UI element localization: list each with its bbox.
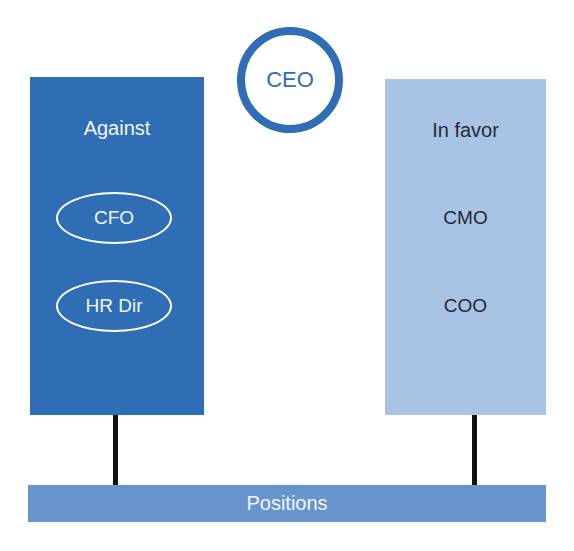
positions-label: Positions [246, 492, 327, 515]
cfo-label: CFO [94, 207, 134, 229]
right-connector-line [472, 415, 477, 486]
coo-label: COO [385, 295, 546, 317]
hr-dir-label: HR Dir [86, 295, 143, 317]
ceo-label: CEO [266, 67, 314, 93]
against-title: Against [30, 117, 204, 140]
cmo-label: CMO [385, 207, 546, 229]
positions-bar: Positions [28, 485, 546, 522]
left-connector-line [113, 415, 118, 486]
cfo-oval: CFO [56, 192, 172, 244]
against-panel: Against CFO HR Dir [30, 77, 204, 415]
in-favor-title: In favor [385, 119, 546, 142]
ceo-circle: CEO [237, 27, 343, 133]
hr-dir-oval: HR Dir [56, 280, 172, 332]
in-favor-panel: In favor CMO COO [385, 79, 546, 415]
